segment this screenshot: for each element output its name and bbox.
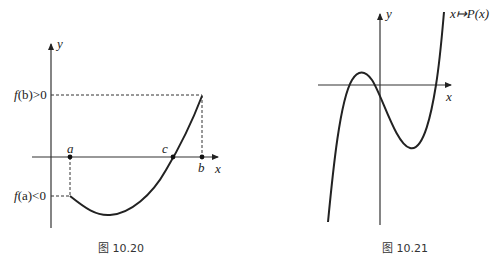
label-c: c (162, 141, 168, 156)
point-c (171, 155, 176, 160)
label-a: a (67, 141, 74, 156)
x-axis-label: x (445, 89, 452, 104)
function-label-P: x↦P(x) (449, 6, 489, 21)
polynomial-curve-P (328, 12, 444, 222)
y-axis-label: y (384, 6, 392, 21)
point-b (200, 155, 205, 160)
label-b: b (198, 160, 205, 175)
label-fb-positive: f(b)>0 (14, 87, 47, 102)
figure-10-21: y x x↦P(x) 图 10.21 (318, 6, 489, 255)
x-axis-label: x (214, 161, 221, 176)
caption-fig-10-20: 图 10.20 (98, 242, 144, 255)
function-curve-f (70, 96, 202, 215)
label-fa-negative: f(a)<0 (14, 188, 46, 203)
figure-10-20: y x a c b f(b)>0 f(a)<0 图 10.20 (14, 36, 221, 255)
y-axis-label: y (55, 36, 63, 51)
caption-fig-10-21: 图 10.21 (382, 242, 428, 255)
